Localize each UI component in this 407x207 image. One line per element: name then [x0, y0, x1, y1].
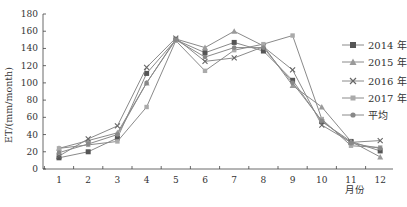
y-tick-label: 60	[27, 112, 39, 122]
y-tick-label: 180	[21, 9, 38, 19]
y-tick-label: 40	[27, 130, 39, 140]
legend-diamond-marker-icon	[342, 93, 364, 103]
legend-label: 2017 年	[368, 90, 407, 105]
y-tick-label: 80	[27, 95, 39, 105]
y-tick-label: 160	[21, 26, 38, 36]
x-tick-label: 4	[144, 175, 150, 185]
legend-label: 2016 年	[368, 73, 407, 88]
legend-x-marker-icon	[342, 76, 364, 86]
legend-label: 2015 年	[368, 54, 407, 69]
x-tick-label: 6	[202, 175, 208, 185]
x-axis-title: 月份	[345, 184, 365, 195]
legend-label: 平均	[368, 107, 388, 122]
x-tick-label: 8	[261, 175, 267, 185]
y-tick-label: 140	[21, 43, 38, 53]
series-line	[57, 33, 383, 150]
x-tick-label: 12	[374, 175, 385, 185]
series-line	[57, 37, 383, 160]
legend-square-marker-icon	[342, 40, 364, 50]
y-tick-label: 100	[21, 78, 38, 88]
x-tick-label: 10	[316, 175, 328, 185]
legend-item-2016: 2016 年	[342, 72, 407, 89]
chart-series	[56, 28, 383, 160]
y-tick-label: 0	[32, 164, 38, 174]
legend-item-2017: 2017 年	[342, 89, 407, 106]
legend-item-2014: 2014 年	[342, 36, 407, 53]
x-tick-label: 9	[290, 175, 296, 185]
chart-axes: 020406080100120140160180123456789101112	[21, 9, 393, 185]
legend-triangle-marker-icon	[342, 57, 364, 67]
legend-label: 2014 年	[368, 37, 407, 52]
x-tick-label: 1	[56, 175, 62, 185]
x-tick-label: 7	[231, 175, 237, 185]
y-axis-title: ET/(mm/month)	[3, 67, 14, 143]
y-tick-label: 20	[27, 147, 39, 157]
legend-circle-marker-icon	[342, 110, 364, 120]
x-tick-label: 3	[115, 175, 121, 185]
chart-legend: 2014 年 2015 年 2016 年 2017 年 平均	[342, 36, 407, 123]
y-tick-label: 120	[21, 61, 38, 71]
series-line	[57, 38, 383, 155]
series-line	[57, 36, 383, 159]
x-tick-label: 2	[85, 175, 91, 185]
x-tick-label: 5	[173, 175, 179, 185]
legend-item-average: 平均	[342, 106, 407, 123]
legend-item-2015: 2015 年	[342, 53, 407, 70]
